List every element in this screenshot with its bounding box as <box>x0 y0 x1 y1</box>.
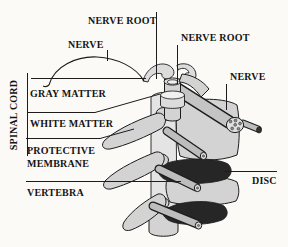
label-disc: DISC <box>252 176 277 186</box>
label-spinal-cord: SPINAL CORD <box>9 73 19 157</box>
label-vertebra: VERTEBRA <box>27 188 84 198</box>
label-membrane: MEMBRANE <box>27 159 89 169</box>
label-nerve-root-top: NERVE ROOT <box>88 16 157 26</box>
cord-dome-outline <box>49 57 144 85</box>
label-nerve-right: NERVE <box>230 72 266 82</box>
nerve-end-cap <box>257 127 262 133</box>
spine-diagram: NERVE ROOT NERVE NERVE ROOT NERVE SPINAL… <box>0 0 288 247</box>
label-protective: PROTECTIVE <box>27 146 95 156</box>
label-gray-matter: GRAY MATTER <box>30 89 106 99</box>
label-nerve-root-right: NERVE ROOT <box>181 33 250 43</box>
label-white-matter: WHITE MATTER <box>30 119 113 129</box>
label-nerve-left: NERVE <box>68 40 104 50</box>
